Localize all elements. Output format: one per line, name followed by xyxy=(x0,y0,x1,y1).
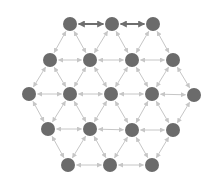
bidirectional-edge-r1c2-r2c3 xyxy=(116,31,128,52)
bidirectional-edge-r3c4-r3c5 xyxy=(161,94,186,95)
bidirectional-edge-r1c1-r2c1 xyxy=(54,31,66,52)
graph-node-r3c5 xyxy=(187,88,201,102)
graph-node-r3c1 xyxy=(22,87,36,101)
bidirectional-edge-r2c1-r3c1 xyxy=(33,67,45,87)
bidirectional-edge-r2c3-r3c4 xyxy=(136,67,147,86)
graph-node-r2c4 xyxy=(166,53,180,67)
bidirectional-edge-r1c1-r2c2 xyxy=(74,31,86,52)
graph-node-r3c2 xyxy=(63,87,77,101)
bidirectional-edge-r4c2-r5c2 xyxy=(94,136,106,157)
graph-node-r4c3 xyxy=(125,123,139,137)
bidirectional-edge-r1c2-r2c2 xyxy=(94,31,107,53)
bidirectional-edge-r1c3-r2c3 xyxy=(136,31,148,52)
bidirectional-edge-r2c2-r3c2 xyxy=(74,67,85,86)
graph-node-r4c4 xyxy=(166,123,180,137)
graph-node-r2c2 xyxy=(83,53,97,67)
graph-node-r3c4 xyxy=(145,87,159,101)
bidirectional-edge-r4c2-r5c1 xyxy=(72,136,85,158)
graph-node-r1c1 xyxy=(63,17,77,31)
bidirectional-edge-r2c4-r3c4 xyxy=(156,67,168,87)
graph-node-r4c2 xyxy=(83,122,97,136)
bidirectional-edge-r3c5-r4c4 xyxy=(177,102,189,122)
bidirectional-edge-r2c3-r3c3 xyxy=(115,67,127,87)
graph-node-r1c2 xyxy=(105,17,119,31)
bidirectional-edge-r2c4-r3c5 xyxy=(177,67,189,87)
bidirectional-edge-r4c1-r5c1 xyxy=(52,136,64,157)
bidirectional-edge-r3c2-r4c1 xyxy=(53,101,66,122)
bidirectional-edge-r1c3-r2c4 xyxy=(157,31,169,52)
graph-node-r2c1 xyxy=(43,53,57,67)
bidirectional-edge-r2c1-r3c2 xyxy=(54,67,65,86)
bidirectional-edge-r4c4-r5c3 xyxy=(156,137,168,157)
graph-node-r5c1 xyxy=(61,158,75,172)
bidirectional-edge-r3c2-r4c2 xyxy=(74,101,86,121)
graph-node-r2c3 xyxy=(125,53,139,67)
bidirectional-edge-r3c1-r4c1 xyxy=(33,101,44,121)
bidirectional-edge-r4c3-r5c3 xyxy=(136,137,148,157)
bidirectional-edge-r3c3-r4c2 xyxy=(94,101,106,121)
bidirectional-edge-r3c4-r4c3 xyxy=(136,101,148,122)
bidirectional-edge-r2c2-r3c3 xyxy=(94,67,106,87)
bidirectional-edge-r4c2-r4c3 xyxy=(99,129,124,130)
bidirectional-edge-r3c3-r4c3 xyxy=(115,101,127,122)
hexagonal-lattice-diagram xyxy=(0,0,216,185)
graph-node-r1c3 xyxy=(146,17,160,31)
graph-node-r3c3 xyxy=(104,87,118,101)
bidirectional-edge-r4c3-r5c2 xyxy=(115,137,128,158)
bidirectional-edge-r3c4-r4c4 xyxy=(156,101,168,122)
graph-node-r5c3 xyxy=(145,158,159,172)
graph-node-r5c2 xyxy=(103,158,117,172)
graph-node-r4c1 xyxy=(41,122,55,136)
